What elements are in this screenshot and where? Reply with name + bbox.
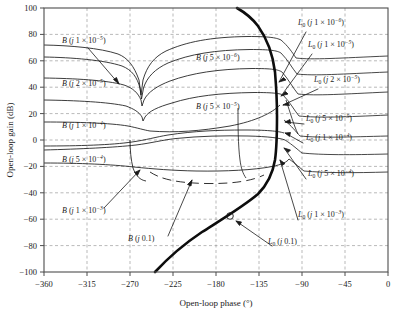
x-tick-label: −90 xyxy=(295,279,308,289)
x-tick-label: −45 xyxy=(338,279,351,289)
x-tick-label: −135 xyxy=(250,279,268,289)
y-tick-label: 60 xyxy=(29,56,38,66)
y-tick-label: −20 xyxy=(24,161,37,171)
x-tick-label: −225 xyxy=(164,279,182,289)
x-tick-label: −315 xyxy=(78,279,96,289)
x-tick-label: −270 xyxy=(121,279,139,289)
y-tick-label: 0 xyxy=(33,135,37,145)
x-tick-label: −360 xyxy=(35,279,53,289)
nichols-chart-figure: −360 −315 −270 −225 −180 −135 −90 −45 0 … xyxy=(0,0,404,322)
y-tick-label: 40 xyxy=(29,82,38,92)
y-tick-label: 80 xyxy=(29,29,38,39)
chart-svg: −360 −315 −270 −225 −180 −135 −90 −45 0 … xyxy=(0,0,404,322)
curve-label-b-0p1: B (j 0.1) xyxy=(128,234,155,243)
y-tick-label: −60 xyxy=(24,214,37,224)
x-tick-label: −180 xyxy=(207,279,225,289)
x-axis-title: Open-loop phase (°) xyxy=(179,298,252,308)
y-tick-label: 100 xyxy=(24,3,37,13)
curve-label-l0-0p1: L0 (j 0.1) xyxy=(267,237,297,247)
x-tick-label: 0 xyxy=(386,279,390,289)
y-tick-label: −80 xyxy=(24,241,37,251)
y-axis-title: Open-loop gain (dB) xyxy=(5,103,15,178)
y-tick-label: −100 xyxy=(19,267,37,277)
y-tick-label: 20 xyxy=(29,109,38,119)
y-tick-label: −40 xyxy=(24,188,37,198)
